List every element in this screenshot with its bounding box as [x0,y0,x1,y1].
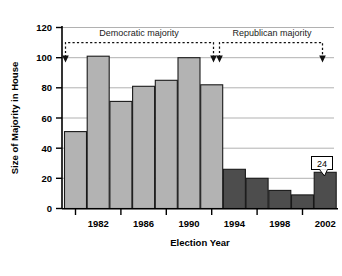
bar-2000[interactable] [292,195,314,209]
y-tick-label-120: 120 [36,22,52,33]
y-tick-label-40: 40 [41,143,52,154]
bar-1996[interactable] [246,178,268,208]
y-tick-label-20: 20 [41,173,52,184]
bar-1980[interactable] [65,132,87,209]
x-axis-title: Election Year [170,237,230,248]
x-tick-label-1986: 1986 [133,218,154,229]
bar-1992[interactable] [201,85,223,209]
bar-2002[interactable] [314,172,336,208]
x-tick-label-1998: 1998 [269,218,290,229]
x-tick-label-1990: 1990 [178,218,199,229]
bar-1998[interactable] [269,190,291,208]
y-tick-label-0: 0 [47,203,52,214]
y-tick-label-80: 80 [41,82,52,93]
x-tick-label-2002: 2002 [315,218,336,229]
bar-1984[interactable] [110,101,132,208]
chart-svg: 120 100 80 60 40 20 0 Size of Majority i… [0,0,342,276]
bar-1990[interactable] [178,58,200,209]
x-tick-label-1994: 1994 [224,218,246,229]
democratic-majority-label: Democratic majority [99,28,179,38]
x-tick-label-1982: 1982 [88,218,109,229]
y-axis-title: Size of Majority in House [9,62,20,174]
bar-1988[interactable] [155,80,177,208]
y-tick-label-100: 100 [36,52,52,63]
bar-chart-figure: 120 100 80 60 40 20 0 Size of Majority i… [0,0,342,276]
callout-value-label: 24 [317,159,327,169]
bar-1994[interactable] [223,169,245,208]
y-tick-label-60: 60 [41,113,52,124]
republican-majority-label: Republican majority [232,28,312,38]
bar-1982[interactable] [87,56,109,208]
bar-1986[interactable] [133,86,155,208]
